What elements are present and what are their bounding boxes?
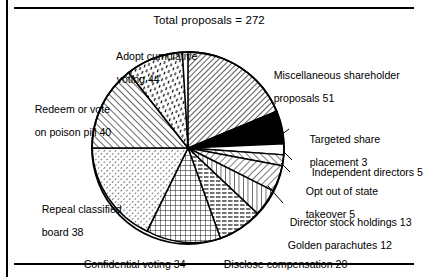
label-line-2: on poison pill 40 [35,126,112,138]
label-line-1: Miscellaneous shareholder [274,69,400,81]
label-repeal-classified-board: Repeal classified board 38 [24,192,122,250]
label-line-1: Confidential voting 34 [84,258,186,270]
label-line-1: Disclose compensation 20 [224,258,348,270]
label-disclose-compensation: Disclose compensation 20 [206,247,347,277]
leader-line-independent-directors [284,152,292,160]
label-adopt-cumulative-voting: Adopt cumulative voting 44 [99,39,197,97]
label-line-2: voting 44 [117,73,160,85]
label-line-2: proposals 51 [274,92,335,104]
label-line-1: Director stock holdings 13 [290,216,412,228]
label-confidential-voting: Confidential voting 34 [66,247,186,277]
label-line-1: Opt out of state [306,185,378,197]
label-miscellaneous-shareholder-proposals: Miscellaneous shareholder proposals 51 [256,58,400,116]
label-line-1: Repeal classified [42,203,122,215]
label-line-2: board 38 [42,226,84,238]
label-line-1: Adopt cumulative [116,50,197,62]
label-line-1: Targeted share [309,133,380,145]
label-line-1: Redeem or vote [35,103,110,115]
label-redeem-or-vote-on-poison-pill: Redeem or vote on poison pill 40 [17,92,111,150]
